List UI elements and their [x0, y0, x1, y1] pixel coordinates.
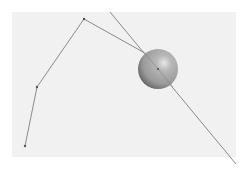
sphere-center-dot [157, 68, 159, 70]
figure-canvas [0, 0, 249, 174]
chain-links [25, 19, 143, 146]
chain-joint [83, 18, 85, 20]
chain-link [84, 19, 143, 52]
chain-joint [24, 145, 26, 147]
chain-joints [24, 18, 85, 147]
ray-line [110, 12, 236, 164]
chain-link [37, 19, 84, 87]
chain-link [25, 87, 37, 146]
chain-joint [36, 86, 38, 88]
kinematic-diagram [0, 0, 249, 174]
